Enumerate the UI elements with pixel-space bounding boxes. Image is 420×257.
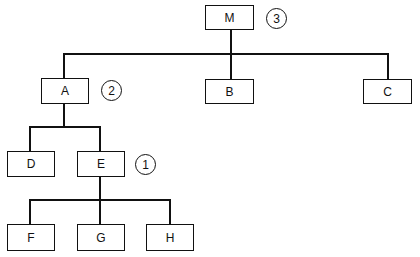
node-m: M — [205, 5, 254, 30]
connector-to-f — [29, 199, 31, 224]
connector-to-c — [387, 53, 389, 79]
tree-diagram: M A B C D E F G H 3 2 1 — [0, 0, 420, 257]
connector-a-horizontal — [29, 126, 101, 128]
order-marker-a: 2 — [101, 80, 122, 101]
order-marker-m: 3 — [266, 8, 287, 29]
node-f: F — [7, 224, 55, 251]
connector-to-e — [99, 126, 101, 151]
node-b: B — [205, 79, 254, 104]
connector-to-a — [63, 53, 65, 79]
connector-e-down — [99, 176, 101, 201]
order-marker-e: 1 — [135, 154, 156, 175]
node-d: D — [7, 151, 55, 177]
connector-m-horizontal — [63, 53, 389, 55]
connector-m-down — [230, 29, 232, 55]
node-g: G — [77, 224, 125, 251]
connector-to-g — [99, 199, 101, 224]
node-c: C — [363, 79, 412, 104]
node-e: E — [77, 151, 125, 177]
node-a: A — [41, 78, 89, 104]
node-h: H — [146, 224, 194, 251]
connector-to-b — [230, 53, 232, 79]
connector-to-h — [169, 199, 171, 224]
connector-a-down — [63, 103, 65, 128]
connector-to-d — [29, 126, 31, 151]
